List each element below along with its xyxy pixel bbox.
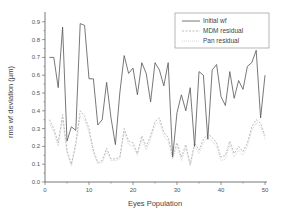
x-axis-title: Eyes Population [128, 199, 182, 208]
y-tick-label: 0.4 [32, 108, 41, 114]
legend-label-mdm: MDM residual [203, 27, 244, 34]
x-tick-label: 20 [130, 187, 137, 193]
line-chart: 0.00.10.20.30.40.50.60.70.80.90102030405… [0, 0, 283, 218]
legend-label-initial: Initial wf [203, 17, 227, 24]
y-tick-label: 0.2 [32, 143, 41, 149]
x-tick-label: 50 [262, 187, 269, 193]
series-pan-residual [49, 116, 265, 166]
y-tick-label: 0.7 [32, 54, 41, 60]
y-tick-label: 0.8 [32, 37, 41, 43]
legend-label-pan: Pan residual [203, 37, 240, 44]
x-tick-label: 0 [43, 187, 47, 193]
y-tick-label: 0.1 [32, 161, 41, 167]
x-tick-label: 10 [86, 187, 93, 193]
x-tick-label: 40 [218, 187, 225, 193]
y-axis-title: rms wf deviation (µm) [6, 66, 15, 138]
x-tick-label: 30 [174, 187, 181, 193]
y-tick-label: 0.9 [32, 19, 41, 25]
y-tick-label: 0.3 [32, 126, 41, 132]
y-tick-label: 0.6 [32, 72, 41, 78]
y-tick-label: 0.0 [32, 179, 41, 185]
y-tick-label: 0.5 [32, 90, 41, 96]
series-mdm-residual [49, 111, 265, 164]
legend: Initial wf MDM residual Pan residual [175, 13, 269, 48]
